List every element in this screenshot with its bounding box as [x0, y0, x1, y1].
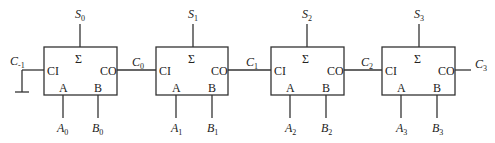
- ci-pin-1: CI: [159, 65, 171, 77]
- cout-base: C: [246, 55, 254, 69]
- co-pin-0: CO: [100, 65, 117, 77]
- carry-out-label-3: C3: [475, 58, 487, 75]
- sum-label-0: S0: [75, 8, 85, 25]
- co-pin-3: CO: [438, 65, 455, 77]
- a-sub: 0: [64, 128, 68, 137]
- a-sub: 2: [292, 128, 296, 137]
- cout-base: C: [475, 57, 483, 71]
- carry-out-label-0: C0: [132, 56, 144, 73]
- carry-in-label: C-1: [10, 55, 25, 72]
- cout-sub: 2: [369, 62, 373, 71]
- b-input-label-0: B0: [92, 122, 103, 139]
- a-pin-2: A: [286, 82, 295, 94]
- cout-base: C: [132, 55, 140, 69]
- a-pin-0: A: [59, 82, 68, 94]
- sigma-pin-3: Σ: [414, 53, 421, 65]
- a-input-label-2: A2: [285, 122, 296, 139]
- a-sub: 1: [178, 128, 182, 137]
- cout-sub: 3: [483, 64, 487, 73]
- sum-label-2: S2: [302, 8, 312, 25]
- b-input-label-2: B2: [321, 122, 332, 139]
- sigma-pin-0: Σ: [75, 53, 82, 65]
- carry-out-label-2: C2: [361, 56, 373, 73]
- cout-base: C: [361, 55, 369, 69]
- b-pin-0: B: [94, 82, 102, 94]
- b-pin-1: B: [208, 82, 216, 94]
- sigma-pin-1: Σ: [188, 53, 195, 65]
- ci-pin-2: CI: [274, 65, 286, 77]
- b-pin-3: B: [433, 82, 441, 94]
- a-input-label-1: A1: [171, 122, 182, 139]
- b-sub: 2: [328, 128, 332, 137]
- cout-sub: 1: [254, 62, 258, 71]
- co-pin-1: CO: [211, 65, 228, 77]
- carry-in-sub: -1: [18, 61, 25, 70]
- b-input-label-1: B1: [207, 122, 218, 139]
- a-pin-1: A: [172, 82, 181, 94]
- sum-sub: 0: [81, 14, 85, 23]
- sum-sub: 3: [420, 14, 424, 23]
- b-sub: 1: [214, 128, 218, 137]
- a-pin-3: A: [397, 82, 406, 94]
- sum-sub: 1: [194, 14, 198, 23]
- cout-sub: 0: [140, 62, 144, 71]
- sum-label-3: S3: [414, 8, 424, 25]
- a-sub: 3: [403, 128, 407, 137]
- co-pin-2: CO: [327, 65, 344, 77]
- sum-label-1: S1: [188, 8, 198, 25]
- b-pin-2: B: [322, 82, 330, 94]
- ci-pin-3: CI: [385, 65, 397, 77]
- sigma-pin-2: Σ: [302, 53, 309, 65]
- ci-pin-0: CI: [47, 65, 59, 77]
- carry-in-base: C: [10, 54, 18, 68]
- carry-out-label-1: C1: [246, 56, 258, 73]
- a-input-label-3: A3: [396, 122, 407, 139]
- b-sub: 3: [439, 128, 443, 137]
- b-input-label-3: B3: [432, 122, 443, 139]
- sum-sub: 2: [308, 14, 312, 23]
- a-input-label-0: A0: [57, 122, 68, 139]
- b-sub: 0: [99, 128, 103, 137]
